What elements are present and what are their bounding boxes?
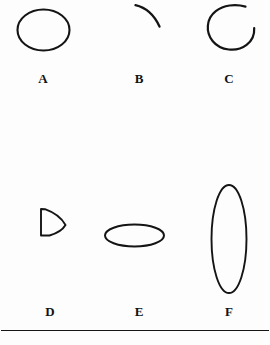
shape-label-d: D <box>40 305 60 318</box>
short-arc-icon <box>132 2 172 36</box>
shape-label-f: F <box>219 305 239 318</box>
shape-cell-a <box>14 7 74 57</box>
tall-narrow-ellipse-icon <box>205 183 253 295</box>
shape-cell-d <box>36 205 76 245</box>
open-circle-with-gap-icon <box>204 2 262 58</box>
shape-label-a: A <box>33 72 53 85</box>
shape-cell-c <box>204 2 262 58</box>
figure-sheet: A B C D E F <box>0 0 270 345</box>
wide-flat-ellipse-icon <box>101 220 169 252</box>
shape-cell-f <box>205 183 253 295</box>
right-pointing-wedge-icon <box>36 205 76 245</box>
closed-circle-outline-icon <box>14 7 74 57</box>
shape-cell-b <box>132 2 172 36</box>
shape-label-c: C <box>219 72 239 85</box>
bottom-horizontal-rule <box>1 330 269 331</box>
shape-label-e: E <box>129 305 149 318</box>
shape-label-b: B <box>129 72 149 85</box>
shape-cell-e <box>101 220 169 252</box>
